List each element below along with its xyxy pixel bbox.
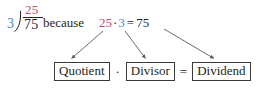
arrow-dividend [164,29,214,59]
dividend-box: Dividend [192,62,250,81]
divisor-box: Divisor [126,62,175,81]
arrow-quotient [72,31,104,59]
boxes-multiply-operator: · [110,65,126,79]
math-illustration: 3 25 75 because 25·3=75 Quotient · Div [0,0,261,92]
formula-boxes-row: Quotient · Divisor = Dividend [54,62,251,81]
boxes-equals-operator: = [175,65,192,79]
arrow-divisor [125,31,146,59]
quotient-box: Quotient [54,62,110,81]
